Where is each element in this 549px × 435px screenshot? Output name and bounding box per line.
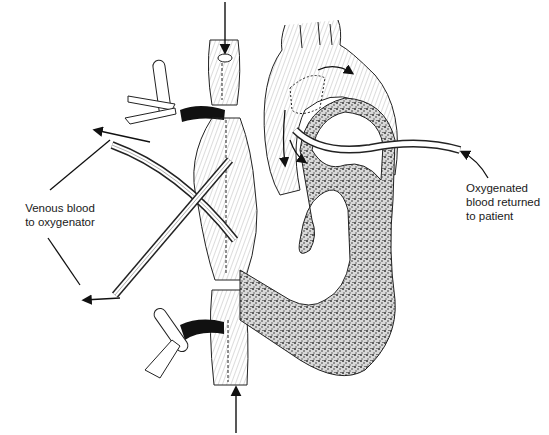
venous-pointer-upper: [50, 140, 110, 190]
superior-vena-cava: [208, 40, 239, 105]
oxygenated-label-line-2: blood returned: [466, 195, 549, 209]
oxygenated-pointer-arrow: [462, 152, 488, 178]
venous-label-line-1: Venous blood: [17, 201, 103, 215]
venous-pointer-lower: [48, 238, 80, 285]
oxygenated-label-line-3: to patient: [466, 209, 549, 223]
oxygenated-blood-label: Oxygenated blood returned to patient: [466, 181, 549, 223]
venous-label-line-2: to oxygenator: [17, 215, 103, 229]
venous-outflow-arrow-upper: [95, 130, 150, 142]
ventricle-stippled: [240, 98, 395, 376]
venous-blood-label: Venous blood to oxygenator: [17, 201, 103, 229]
venous-outflow-arrow-lower: [84, 298, 120, 300]
oxygenated-label-line-1: Oxygenated: [466, 181, 549, 195]
